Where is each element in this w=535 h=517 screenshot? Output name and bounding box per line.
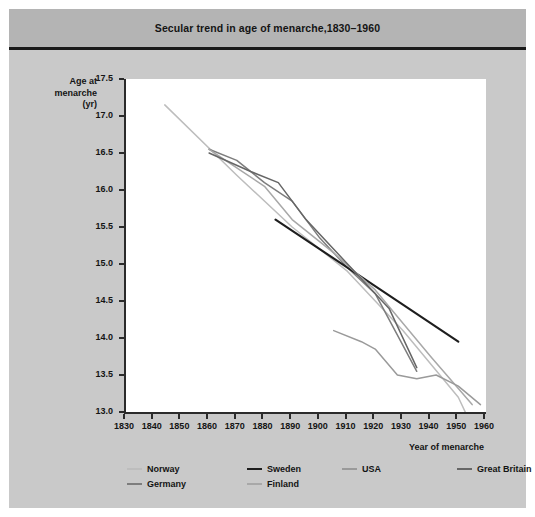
series-line-germany (209, 149, 417, 371)
x-axis-tick-mark (289, 414, 291, 419)
x-axis-tick-mark (400, 414, 402, 419)
y-axis-tick-label: 14.5 (79, 295, 113, 305)
legend-swatch-icon (247, 483, 262, 485)
y-axis-tick-label: 15.0 (79, 258, 113, 268)
legend-swatch-icon (127, 483, 142, 485)
x-axis-title: Year of menarche (409, 442, 484, 452)
legend-entry-great-britain[interactable]: Great Britain (457, 464, 532, 474)
plot-container: Age at menarche (yr) 17.517.016.516.015.… (9, 50, 526, 508)
x-axis-tick-mark (455, 414, 457, 419)
series-line-great-britain (209, 153, 417, 368)
legend-entry-norway[interactable]: Norway (127, 464, 180, 474)
page-title: Secular trend in age of menarche,1830–19… (155, 22, 380, 34)
y-axis-tick-label: 15.5 (79, 221, 113, 231)
y-axis-tick-label: 17.0 (79, 110, 113, 120)
y-axis-tick-label: 13.0 (79, 406, 113, 416)
x-axis-tick-mark (206, 414, 208, 419)
x-axis-tick-label: 1960 (467, 421, 501, 431)
y-axis-tick-label: 17.5 (79, 73, 113, 83)
x-axis-tick-mark (345, 414, 347, 419)
x-axis-tick-mark (123, 414, 125, 419)
x-axis-tick-mark (234, 414, 236, 419)
plot-area (124, 79, 486, 414)
y-axis-title-line3: (yr) (29, 99, 97, 111)
legend-label: Norway (147, 464, 180, 474)
y-axis-title-line2: menarche (29, 88, 97, 100)
line-chart-svg (126, 79, 486, 412)
legend-entry-usa[interactable]: USA (342, 464, 381, 474)
y-axis-tick-label: 16.5 (79, 147, 113, 157)
legend-swatch-icon (247, 468, 262, 470)
legend-label: Sweden (267, 464, 301, 474)
legend-entry-germany[interactable]: Germany (127, 479, 186, 489)
x-axis-tick-mark (261, 414, 263, 419)
x-axis-tick-mark (372, 414, 374, 419)
legend-entry-finland[interactable]: Finland (247, 479, 299, 489)
legend-entry-sweden[interactable]: Sweden (247, 464, 301, 474)
legend-swatch-icon (127, 468, 142, 470)
legend-label: Great Britain (477, 464, 532, 474)
legend-row-1: NorwaySwedenUSAGreat Britain (127, 464, 507, 479)
x-axis-tick-mark (317, 414, 319, 419)
legend-row-2: GermanyFinland (127, 479, 507, 494)
x-axis-tick-mark (151, 414, 153, 419)
x-axis-tick-mark (428, 414, 430, 419)
legend-swatch-icon (342, 468, 357, 470)
legend-swatch-icon (457, 468, 472, 470)
y-axis-tick-label: 16.0 (79, 184, 113, 194)
series-line-sweden (276, 220, 459, 342)
legend-label: USA (362, 464, 381, 474)
x-axis-tick-mark (178, 414, 180, 419)
legend-label: Finland (267, 479, 299, 489)
chart-title-band: Secular trend in age of menarche,1830–19… (9, 9, 526, 47)
legend-label: Germany (147, 479, 186, 489)
y-axis-tick-label: 13.5 (79, 369, 113, 379)
chart-legend: NorwaySwedenUSAGreat Britain GermanyFinl… (127, 464, 507, 494)
y-axis-tick-label: 14.0 (79, 332, 113, 342)
figure-panel: Secular trend in age of menarche,1830–19… (9, 9, 526, 508)
x-axis-tick-mark (483, 414, 485, 419)
